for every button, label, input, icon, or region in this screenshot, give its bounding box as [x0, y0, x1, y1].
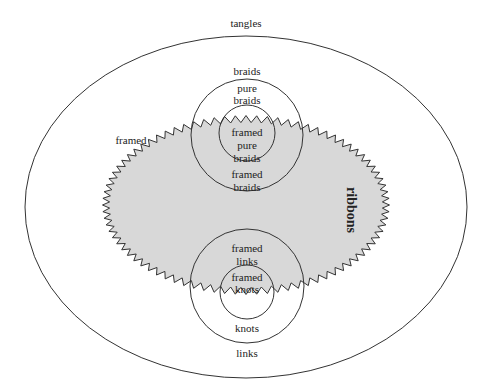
ribbons-label: ribbons	[344, 187, 359, 233]
set-diagram: tangles braids pure braids framed pure b…	[0, 0, 489, 389]
framed-links-label-1: framed	[231, 242, 263, 254]
links-label: links	[236, 347, 257, 359]
braids-label: braids	[234, 65, 261, 77]
framed-links-label-2: links	[236, 255, 257, 267]
framed-knots-label-2: knots	[235, 283, 259, 295]
framed-braids-label-1: framed	[231, 168, 263, 180]
framed-pure-braids-label-2: pure	[237, 139, 257, 151]
knots-label: knots	[235, 322, 259, 334]
framed-pure-braids-label-3: braids	[234, 152, 261, 164]
framed-knots-label-1: framed	[231, 271, 263, 283]
pure-braids-label-1: pure	[237, 82, 257, 94]
framed-pure-braids-label-1: framed	[231, 126, 263, 138]
tangles-label: tangles	[230, 17, 261, 29]
pure-braids-label-2: braids	[234, 94, 261, 106]
framed-braids-label-2: braids	[234, 181, 261, 193]
framed-label: framed	[115, 134, 147, 146]
